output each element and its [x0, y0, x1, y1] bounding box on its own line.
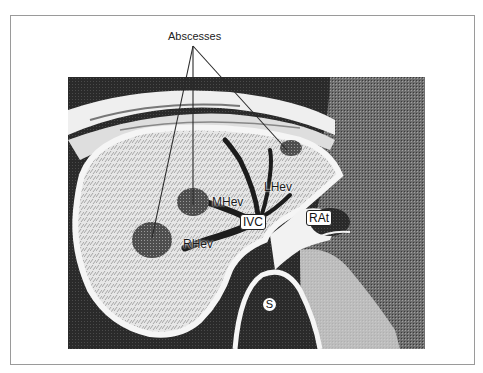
rat-label: RAt [306, 210, 332, 226]
rhev-label: RHev [183, 238, 213, 250]
stomach-label: S [263, 298, 276, 311]
mhev-label: MHev [212, 196, 243, 208]
ct-scan-image [0, 0, 483, 373]
abscesses-label: Abscesses [168, 31, 221, 42]
ivc-label: IVC [240, 214, 266, 230]
lhev-label: LHev [264, 181, 292, 193]
